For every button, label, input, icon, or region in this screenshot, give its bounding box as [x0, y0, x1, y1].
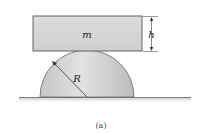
mass-label: m: [82, 29, 91, 40]
height-label: h: [148, 29, 154, 40]
block-on-hemisphere-diagram: m h R (a): [0, 0, 203, 133]
ground: [19, 97, 191, 102]
figure-caption: (a): [95, 121, 106, 130]
radius-label: R: [72, 73, 81, 84]
hemisphere: [40, 50, 134, 97]
